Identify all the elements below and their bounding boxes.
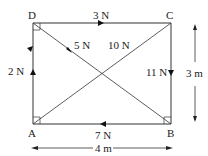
- arrow-7n-icon: [100, 121, 106, 127]
- dimension-height-arrow-down-icon: [193, 116, 197, 122]
- corner-label-b: B: [167, 128, 174, 139]
- force-diagram: D C A B 3 N 11 N 7 N 2 N 5 N 10 N 3 m 4 …: [0, 0, 208, 156]
- force-label-11n: 11 N: [146, 67, 167, 78]
- dimension-height-label: 3 m: [186, 68, 203, 79]
- dimension-width-arrow-left-icon: [31, 146, 38, 150]
- force-label-5n: 5 N: [74, 40, 90, 51]
- arrow-2n-icon: [30, 69, 36, 75]
- force-label-2n: 2 N: [8, 66, 24, 77]
- dimension-height-arrow-up-icon: [193, 24, 197, 30]
- arrow-11n-icon: [168, 70, 174, 76]
- corner-label-d: D: [28, 10, 36, 21]
- force-label-3n: 3 N: [93, 10, 109, 21]
- force-label-7n: 7 N: [95, 130, 111, 141]
- corner-label-a: A: [28, 128, 36, 139]
- force-label-10n: 10 N: [108, 40, 130, 51]
- arrow-10n-icon: [27, 46, 33, 52]
- dimension-width-arrow-right-icon: [166, 146, 173, 150]
- dimension-width-label: 4 m: [95, 143, 112, 154]
- corner-label-c: C: [166, 10, 173, 21]
